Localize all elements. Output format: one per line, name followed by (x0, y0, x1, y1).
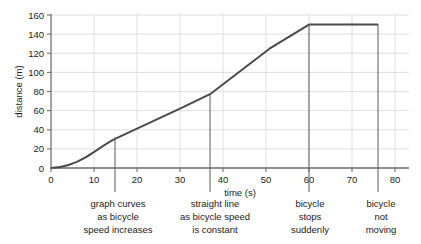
distance-time-graph: 160 140 120 100 80 60 40 20 0 0 10 20 30… (0, 0, 421, 244)
ytick-label-80: 80 (33, 86, 44, 97)
annotation-3-line-3: suddenly (291, 224, 329, 235)
annotation-2-line-1: straight line (191, 198, 240, 209)
ytick-label-100: 100 (28, 67, 44, 78)
annotation-3-line-2: stops (299, 211, 322, 222)
annotation-2-line-3: is constant (192, 224, 238, 235)
annotation-1-line-1: graph curves (91, 198, 146, 209)
xtick-label-20: 20 (132, 174, 143, 185)
annotation-1-line-3: speed increases (83, 224, 152, 235)
ytick-label-120: 120 (28, 48, 44, 59)
annotation-1-line-2: as bicycle (97, 211, 139, 222)
ytick-label-40: 40 (33, 124, 44, 135)
ytick-label-20: 20 (33, 143, 44, 154)
ytick-label-0: 0 (39, 163, 44, 174)
xtick-label-30: 30 (175, 174, 186, 185)
ytick-label-60: 60 (33, 105, 44, 116)
xtick-label-10: 10 (89, 174, 100, 185)
x-axis-title: time (s) (224, 187, 256, 198)
annotation-4-line-3: moving (366, 224, 397, 235)
annotation-4-line-2: not (374, 211, 388, 222)
xtick-label-0: 0 (48, 174, 53, 185)
xtick-label-50: 50 (261, 174, 272, 185)
xtick-label-70: 70 (347, 174, 358, 185)
annotation-4-line-1: bicycle (366, 198, 395, 209)
ytick-label-160: 160 (28, 10, 44, 21)
annotation-2-line-2: as bicycle speed (180, 211, 250, 222)
chart-screenshot: 160 140 120 100 80 60 40 20 0 0 10 20 30… (0, 0, 421, 244)
annotation-3-line-1: bicycle (295, 198, 324, 209)
xtick-label-40: 40 (218, 174, 229, 185)
xtick-label-80: 80 (390, 174, 401, 185)
ytick-label-140: 140 (28, 29, 44, 40)
y-axis-title: distance (m) (13, 65, 24, 117)
